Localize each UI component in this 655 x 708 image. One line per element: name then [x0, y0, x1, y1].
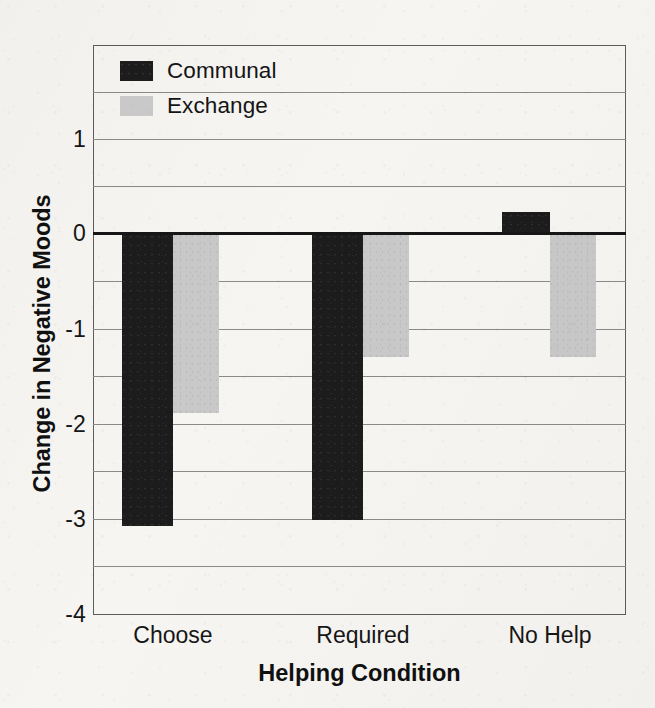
bar-required-exchange	[363, 233, 409, 357]
legend-item-communal: Communal	[120, 54, 277, 88]
gridline-1.0	[93, 139, 626, 140]
gridline--3.5	[93, 566, 626, 567]
bar-nohelp-communal	[502, 212, 550, 234]
chart-legend: Communal Exchange	[120, 54, 277, 124]
legend-item-exchange: Exchange	[120, 89, 277, 123]
y-axis-title: Change in Negative Moods	[29, 134, 56, 554]
y-tick-label--4: -4	[16, 601, 86, 628]
zero-axis-line	[93, 232, 626, 235]
legend-swatch-exchange-icon	[120, 96, 153, 116]
x-axis-title: Helping Condition	[93, 660, 626, 687]
bar-choose-communal	[122, 233, 173, 526]
legend-label-exchange: Exchange	[167, 93, 268, 119]
gridline-0.5	[93, 186, 626, 187]
legend-swatch-communal-icon	[120, 61, 153, 81]
x-tick-label-required: Required	[268, 622, 458, 649]
x-tick-label-nohelp: No Help	[455, 622, 645, 649]
bar-required-communal	[312, 233, 363, 520]
bar-choose-exchange	[173, 233, 219, 413]
bar-nohelp-exchange	[550, 233, 596, 357]
x-tick-label-choose: Choose	[78, 622, 268, 649]
legend-label-communal: Communal	[167, 58, 277, 84]
